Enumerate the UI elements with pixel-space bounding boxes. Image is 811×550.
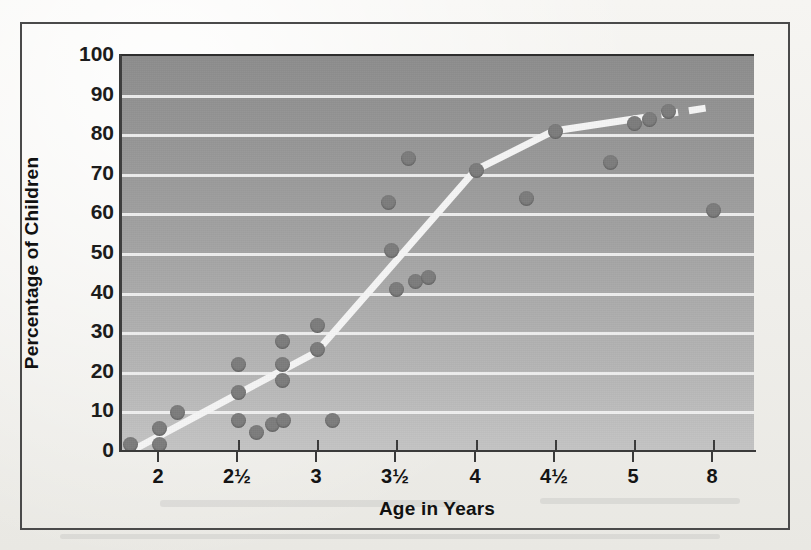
data-point	[469, 163, 484, 178]
gridline	[122, 174, 754, 177]
x-axis-tick-label: 4½	[540, 466, 568, 486]
gridline	[122, 293, 754, 296]
gridline	[122, 372, 754, 375]
y-axis-title: Percentage of Children	[21, 113, 43, 413]
x-axis-tick-label: 2½	[223, 466, 251, 486]
data-point	[170, 405, 185, 420]
y-axis-tick-label: 30	[58, 320, 114, 341]
data-point	[275, 373, 290, 388]
data-point	[231, 385, 246, 400]
y-axis-tick-labels: 0102030405060708090100	[52, 0, 114, 550]
gridline	[122, 213, 754, 216]
x-axis-tick-outer	[315, 452, 317, 462]
gridline	[122, 411, 754, 414]
y-axis-tick-label: 60	[58, 201, 114, 222]
data-point	[325, 413, 340, 428]
paper-smudge	[60, 534, 720, 539]
y-axis-tick-label: 20	[58, 360, 114, 381]
data-point	[231, 357, 246, 372]
data-point	[706, 203, 721, 218]
data-point	[603, 155, 618, 170]
y-axis-tick-label: 70	[58, 162, 114, 183]
data-point	[381, 195, 396, 210]
y-axis-tick-label: 40	[58, 281, 114, 302]
data-point	[519, 191, 534, 206]
data-point	[401, 151, 416, 166]
data-point	[548, 124, 563, 139]
x-axis-tick-label: 4	[469, 466, 480, 486]
gridline	[122, 134, 754, 137]
data-point	[231, 413, 246, 428]
x-axis-tick	[476, 440, 478, 450]
x-axis-tick	[396, 440, 398, 450]
x-axis-tick-outer	[157, 452, 159, 462]
data-point	[389, 282, 404, 297]
x-axis-tick	[713, 440, 715, 450]
data-point	[152, 437, 167, 450]
x-axis-tick	[634, 440, 636, 450]
x-axis-tick-label: 5	[627, 466, 638, 486]
y-axis-tick-label: 80	[58, 122, 114, 143]
data-point	[627, 116, 642, 131]
x-axis-tick	[317, 440, 319, 450]
x-axis-tick-outer	[632, 452, 634, 462]
x-axis-tick-label: 2	[152, 466, 163, 486]
plot-area	[120, 54, 754, 450]
data-point	[275, 334, 290, 349]
trend-line-solid	[124, 119, 633, 450]
data-point	[384, 243, 399, 258]
data-point	[642, 112, 657, 127]
y-axis-tick-label: 100	[58, 43, 114, 64]
x-axis-tick	[555, 440, 557, 450]
data-point	[310, 342, 325, 357]
y-axis-tick-label: 10	[58, 399, 114, 420]
x-axis-tick-label: 3	[310, 466, 321, 486]
y-axis-tick-label: 0	[58, 439, 114, 460]
x-axis-title: Age in Years	[120, 498, 754, 520]
x-axis-tick-outer	[236, 452, 238, 462]
data-point	[275, 357, 290, 372]
data-point	[276, 413, 291, 428]
x-axis-tick-label: 8	[706, 466, 717, 486]
gridline	[122, 332, 754, 335]
gridline	[122, 253, 754, 256]
data-point	[123, 437, 138, 450]
y-axis-tick-label: 90	[58, 83, 114, 104]
chart-figure: 0102030405060708090100 Percentage of Chi…	[0, 0, 811, 550]
data-point	[421, 270, 436, 285]
x-axis-tick-outer	[394, 452, 396, 462]
data-point	[152, 421, 167, 436]
x-axis-tick	[238, 440, 240, 450]
x-axis-tick-label: 3½	[381, 466, 409, 486]
x-axis-tick-outer	[711, 452, 713, 462]
data-point	[661, 104, 676, 119]
gridline	[122, 95, 754, 98]
x-axis-line	[120, 450, 756, 452]
data-point	[249, 425, 264, 440]
y-axis-tick-label: 50	[58, 241, 114, 262]
x-axis-tick-outer	[474, 452, 476, 462]
x-axis-tick-outer	[553, 452, 555, 462]
data-point	[310, 318, 325, 333]
